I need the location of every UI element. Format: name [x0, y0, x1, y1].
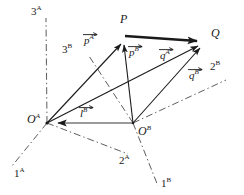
overhead-arrow-icon	[188, 67, 204, 71]
point-Q-label: Q	[211, 27, 220, 39]
vector-diagram-figure: 3A 3B 2B 1A 2A 1B P Q OA OB pA pB qA qB	[0, 0, 244, 195]
vector-pB-label: pB	[129, 47, 139, 58]
overhead-arrow-icon	[128, 44, 144, 48]
vector-qA-label: qA	[160, 50, 170, 61]
origin-A-label: OA	[27, 113, 40, 125]
overhead-arrow-icon	[83, 32, 99, 36]
axes-frame-a	[12, 18, 128, 166]
point-P-label: P	[120, 13, 127, 25]
vector-qA-line	[47, 46, 198, 123]
axis-2B-line	[133, 80, 226, 123]
origin-B-dot	[132, 122, 134, 124]
vector-pA-label: pA	[84, 35, 94, 46]
axis-3B-label: 3B	[62, 44, 72, 55]
axis-1A-label: 1A	[14, 168, 25, 179]
vector-qB-label: qB	[189, 70, 199, 81]
overhead-arrow-icon	[159, 47, 175, 51]
origin-B-label: OB	[138, 125, 151, 137]
overhead-arrow-icon	[79, 105, 95, 109]
axis-2A-label: 2A	[119, 155, 130, 166]
axis-2A-line	[47, 123, 128, 154]
origin-A-dot	[45, 121, 48, 124]
axis-2B-label: 2B	[210, 61, 220, 72]
vector-lB-label: lB	[80, 108, 87, 119]
axis-1A-line	[12, 123, 47, 166]
axes-frame-b	[89, 56, 226, 186]
axis-3A-label: 3A	[31, 6, 42, 17]
axis-1B-label: 1B	[161, 178, 171, 189]
axis-3A-line	[46, 18, 47, 123]
vector-PQ-line	[125, 36, 197, 41]
